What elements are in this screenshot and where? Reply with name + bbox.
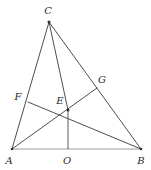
point-label-F: F — [14, 91, 23, 102]
geometry-figure: C G F E A O B — [0, 0, 151, 170]
point-label-C: C — [44, 5, 52, 16]
point-label-E: E — [55, 95, 64, 106]
geometry-canvas: C G F E A O B — [0, 0, 151, 170]
segment-CA — [12, 22, 49, 149]
point-label-G: G — [98, 74, 106, 85]
point-label-O: O — [63, 155, 71, 166]
point-C — [48, 21, 51, 24]
segment-AG — [12, 88, 97, 149]
point-label-B: B — [136, 155, 144, 166]
point-A — [11, 148, 14, 151]
point-label-A: A — [4, 155, 12, 166]
point-B — [140, 148, 143, 151]
point-E — [67, 109, 70, 112]
